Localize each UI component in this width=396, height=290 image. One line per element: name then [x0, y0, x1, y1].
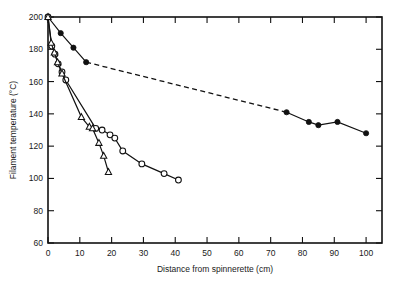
data-point-open-circle — [139, 161, 145, 167]
y-axis-tick-labels: 6080100120140160180200 — [29, 12, 43, 248]
data-point-open-circle — [120, 148, 126, 154]
x-tick-label: 20 — [107, 248, 117, 258]
filament-temperature-chart: 0102030405060708090100 60801001201401601… — [0, 0, 396, 290]
data-point-filled-circle — [306, 119, 311, 124]
curve-segment — [287, 112, 367, 133]
data-point-filled-circle — [84, 60, 89, 65]
x-tick-label: 0 — [46, 248, 51, 258]
data-point-open-circle — [99, 127, 105, 133]
curve-dashed-segment — [86, 62, 286, 112]
y-axis-title: Filament temperature (°C) — [8, 81, 18, 180]
y-tick-label: 180 — [29, 44, 43, 54]
data-point-open-circle — [176, 177, 182, 183]
x-axis-title: Distance from spinnerette (cm) — [157, 264, 273, 274]
x-tick-label: 30 — [139, 248, 149, 258]
y-tick-label: 120 — [29, 141, 43, 151]
data-point-open-triangle — [48, 39, 54, 45]
data-point-filled-circle — [364, 131, 369, 136]
data-point-filled-circle — [58, 31, 63, 36]
x-tick-label: 90 — [330, 248, 340, 258]
series-filled-circle-series — [45, 14, 368, 135]
data-point-open-triangle — [101, 152, 107, 158]
x-tick-label: 70 — [266, 248, 276, 258]
y-tick-label: 140 — [29, 109, 43, 119]
data-point-filled-circle — [335, 119, 340, 124]
x-axis-tick-labels: 0102030405060708090100 — [46, 248, 374, 258]
data-point-filled-circle — [284, 110, 289, 115]
data-point-filled-circle — [316, 123, 321, 128]
data-point-open-triangle — [78, 114, 84, 120]
data-point-filled-circle — [71, 45, 76, 50]
data-point-open-triangle — [96, 140, 102, 146]
y-tick-label: 160 — [29, 77, 43, 87]
x-tick-label: 100 — [359, 248, 373, 258]
data-point-open-triangle — [105, 169, 111, 175]
figure-container: 0102030405060708090100 60801001201401601… — [0, 0, 396, 290]
x-tick-label: 40 — [171, 248, 181, 258]
x-tick-label: 10 — [75, 248, 85, 258]
x-tick-label: 50 — [202, 248, 212, 258]
curve-segment — [48, 17, 108, 172]
data-series-layer — [45, 14, 369, 183]
series-open-triangle-series — [45, 14, 112, 175]
y-tick-label: 80 — [34, 206, 44, 216]
y-tick-label: 200 — [29, 12, 43, 22]
x-tick-label: 60 — [234, 248, 244, 258]
y-tick-label: 100 — [29, 173, 43, 183]
data-point-open-circle — [112, 135, 118, 141]
x-tick-label: 80 — [298, 248, 308, 258]
y-tick-label: 60 — [34, 238, 44, 248]
data-point-open-circle — [161, 171, 167, 177]
